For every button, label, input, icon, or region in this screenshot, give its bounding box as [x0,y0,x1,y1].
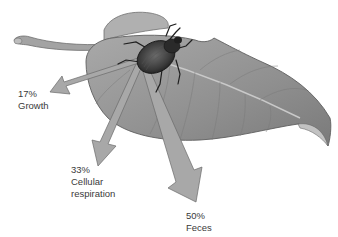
label-feces: 50% Feces [186,210,212,234]
feces-text: Feces [186,222,212,234]
respiration-percent: 33% [71,164,115,176]
respiration-text-line2: respiration [71,188,115,200]
growth-text: Growth [18,100,49,112]
respiration-text-line1: Cellular [71,176,115,188]
growth-percent: 17% [18,88,49,100]
label-growth: 17% Growth [18,88,49,112]
label-respiration: 33% Cellular respiration [71,164,115,200]
feces-percent: 50% [186,210,212,222]
diagram-illustration [0,0,338,237]
